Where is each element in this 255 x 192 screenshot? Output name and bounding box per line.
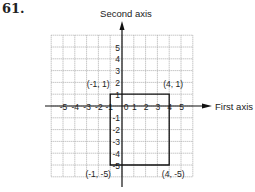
x-tick-label: 2 <box>144 102 149 112</box>
y-tick-label: 5 <box>115 43 120 53</box>
y-tick-label: -1 <box>112 113 120 123</box>
y-axis-arrow-icon <box>120 21 125 30</box>
point-label: (4, 1) <box>163 79 183 89</box>
x-tick-label: 5 <box>179 102 184 112</box>
y-tick-label: -3 <box>112 137 120 147</box>
y-tick-label: 4 <box>115 54 120 64</box>
x-tick-label: 1 <box>132 102 137 112</box>
x-tick-label: -4 <box>72 102 80 112</box>
x-tick-label: -5 <box>60 102 68 112</box>
y-axis-label: Second axis <box>100 8 152 19</box>
coordinate-plane: First axisSecond axis-5-4-3-2-1012345543… <box>0 0 255 192</box>
y-tick-label: 3 <box>115 66 120 76</box>
y-tick-label: -4 <box>112 149 120 159</box>
x-tick-label: 3 <box>156 102 161 112</box>
x-tick-label: -2 <box>95 102 103 112</box>
x-axis-arrow-icon <box>202 104 212 109</box>
point-label: (-1, -5) <box>85 169 111 179</box>
y-tick-label: -2 <box>112 125 120 135</box>
x-axis-label: First axis <box>215 101 253 112</box>
x-tick-label: 0 <box>124 102 129 112</box>
x-tick-label: -3 <box>83 102 91 112</box>
x-tick-label: -1 <box>105 102 113 112</box>
point-label: (4, -5) <box>162 169 185 179</box>
y-tick-label: 2 <box>115 78 120 88</box>
point-label: (-1, 1) <box>87 79 110 89</box>
